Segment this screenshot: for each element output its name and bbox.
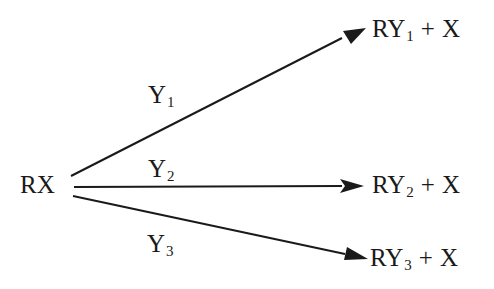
product-label-2: RY2+X (372, 172, 460, 200)
arrow-to-product-3 (73, 196, 368, 260)
reactant-label: RX (20, 172, 55, 197)
reagent-label-1: Y1 (148, 82, 175, 110)
product-label-3: RY3+X (370, 245, 458, 273)
reagent-label-3: Y3 (147, 231, 174, 259)
product-label-1: RY1+X (372, 16, 460, 44)
reagent-label-2: Y2 (148, 156, 175, 184)
arrow-to-product-2 (74, 179, 364, 193)
arrow-to-product-1 (71, 28, 366, 176)
reaction-diagram: RX Y1 Y2 Y3 RY1+X RY2+X RY3+X (0, 0, 494, 289)
